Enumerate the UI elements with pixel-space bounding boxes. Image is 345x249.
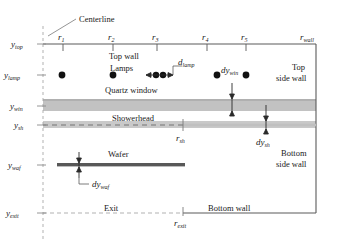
- label-bottom-side-wall-line2: side wall: [276, 159, 307, 169]
- lamp-dot: [214, 72, 221, 79]
- diagram-canvas: Centerline r1 r2 r3 r4 r5 rwall ytop yla…: [0, 0, 345, 249]
- lamp-dot: [243, 72, 250, 79]
- label-top-wall: Top wall: [109, 51, 139, 61]
- label-y-lamp: ylamp: [3, 70, 20, 81]
- wafer-bar: [57, 163, 185, 166]
- label-top-side-wall-line1: Top: [292, 62, 305, 72]
- label-y-win: ywin: [9, 101, 23, 112]
- label-bottom-side-wall-line1: Bottom: [281, 148, 307, 158]
- axial-tick-marks: [37, 44, 46, 213]
- label-quartz-window: Quartz window: [105, 85, 159, 95]
- label-y-top: ytop: [10, 39, 23, 50]
- centerline-leader: [48, 19, 76, 36]
- label-d-lamp: dlamp: [178, 57, 195, 68]
- centerline-label: Centerline: [79, 14, 115, 24]
- label-y-sh: ysh: [13, 120, 23, 131]
- d-lamp-dimension-arrow: [146, 73, 173, 78]
- label-r-wall: rwall: [300, 32, 314, 43]
- label-lamps: Lamps: [110, 63, 133, 73]
- lamp-dot: [59, 72, 66, 79]
- label-dy-sh: dysh: [256, 137, 270, 148]
- label-y-exit: yexit: [5, 208, 19, 219]
- label-top-side-wall-line2: side wall: [276, 73, 307, 83]
- radial-tick-marks: [63, 44, 246, 51]
- quartz-window-band-edge: [43, 99, 316, 101]
- label-y-waf: ywaf: [7, 160, 22, 171]
- label-r-exit: rexit: [174, 218, 187, 229]
- label-exit: Exit: [104, 203, 119, 213]
- label-r1: r1: [58, 32, 65, 43]
- label-dy-win: dywin: [221, 65, 238, 76]
- reactor-cross-section-svg: Centerline r1 r2 r3 r4 r5 rwall ytop yla…: [0, 0, 345, 249]
- label-r5: r5: [241, 32, 248, 43]
- label-dy-waf: dywaf: [92, 179, 111, 190]
- label-r2: r2: [108, 32, 115, 43]
- label-wafer: Wafer: [108, 149, 129, 159]
- label-bottom-wall: Bottom wall: [208, 203, 251, 213]
- label-r-sh: rsh: [176, 133, 185, 144]
- label-showerhead: Showerhead: [112, 113, 155, 123]
- label-r4: r4: [202, 32, 209, 43]
- label-r3: r3: [152, 32, 159, 43]
